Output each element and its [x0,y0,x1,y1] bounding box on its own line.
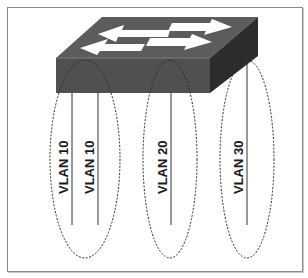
switch-front-face [56,58,210,93]
vlan-label: VLAN 20 [155,141,170,194]
network-switch-icon [56,17,258,93]
vlan-labels: VLAN 10 VLAN 10 VLAN 20 VLAN 30 [56,141,246,195]
vlan-label: VLAN 10 [82,141,97,194]
vlan-diagram: VLAN 10 VLAN 10 VLAN 20 VLAN 30 [0,0,308,278]
vlan-label: VLAN 10 [56,141,71,194]
vlan-label: VLAN 30 [231,141,246,194]
